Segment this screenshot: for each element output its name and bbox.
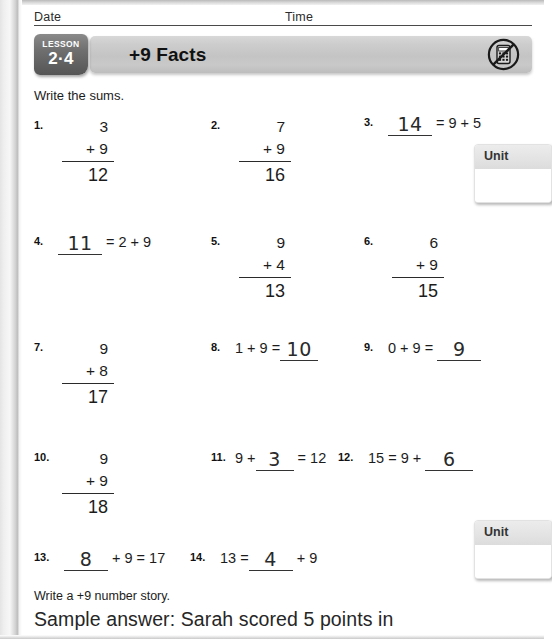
- horizontal-equation: 11 = 2 + 9: [58, 232, 151, 255]
- equation-rest: + 9 = 17: [112, 550, 165, 566]
- sum-value: 17: [62, 383, 114, 408]
- horizontal-equation: 1 + 9 =10: [235, 338, 318, 361]
- vertical-addition: 9 + 8 17: [62, 338, 114, 408]
- top-addend: 7: [239, 116, 291, 138]
- problem-number: 2.: [211, 119, 220, 131]
- horizontal-equation: 8 + 9 = 17: [64, 548, 165, 571]
- page-title: +9 Facts: [129, 44, 206, 66]
- problem-number: 6.: [364, 235, 373, 247]
- instruction-number-story: Write a +9 number story.: [34, 589, 170, 603]
- sample-answer-text: Sample answer: Sarah scored 5 points in: [34, 608, 393, 631]
- bottom-addend: + 9: [62, 138, 114, 160]
- problem-number: 10.: [34, 451, 49, 463]
- equation-lead: 0 + 9 =: [388, 340, 433, 356]
- bottom-addend: + 9: [62, 470, 114, 492]
- answer-blank[interactable]: 4: [249, 549, 293, 571]
- date-time-rule: [34, 25, 532, 26]
- lesson-banner: LESSON 2·4 +9 Facts: [34, 34, 532, 75]
- sum-value: 12: [62, 161, 114, 186]
- problem-number: 3.: [364, 116, 373, 128]
- unit-box-field[interactable]: [475, 545, 551, 578]
- equation-rest: + 9: [297, 550, 318, 566]
- top-addend: 6: [392, 232, 444, 254]
- unit-box-field[interactable]: [475, 169, 551, 202]
- equation-rest: = 12: [298, 450, 327, 466]
- problem-number: 12.: [338, 451, 353, 463]
- equation-lead: 13 =: [220, 550, 249, 566]
- sum-value: 15: [392, 277, 444, 302]
- unit-box-label: Unit: [475, 521, 551, 545]
- time-label: Time: [285, 10, 313, 24]
- equation-rest: = 2 + 9: [106, 234, 151, 250]
- horizontal-equation: 14 = 9 + 5: [388, 113, 481, 136]
- top-addend: 9: [62, 448, 114, 470]
- horizontal-equation: 15 = 9 + 6: [368, 448, 473, 471]
- sum-value: 18: [62, 493, 114, 518]
- problem-number: 7.: [34, 341, 43, 353]
- horizontal-equation: 0 + 9 = 9: [388, 338, 481, 361]
- top-addend: 3: [62, 116, 114, 138]
- horizontal-equation: 13 =4 + 9: [220, 548, 317, 571]
- equation-lead: 15 = 9 +: [368, 450, 421, 466]
- unit-box[interactable]: Unit: [474, 144, 552, 203]
- equation-lead: 9 +: [235, 450, 256, 466]
- answer-blank[interactable]: 14: [388, 114, 432, 136]
- unit-box-label: Unit: [475, 145, 551, 169]
- unit-box[interactable]: Unit: [474, 520, 552, 579]
- scan-left-gutter: [0, 0, 22, 639]
- answer-blank[interactable]: 8: [64, 549, 108, 571]
- bottom-addend: + 9: [392, 254, 444, 276]
- answer-blank[interactable]: 9: [437, 339, 481, 361]
- problem-number: 9.: [364, 341, 373, 353]
- sum-value: 16: [239, 161, 291, 186]
- problem-number: 13.: [34, 551, 49, 563]
- answer-blank[interactable]: 10: [280, 339, 318, 361]
- lesson-badge: LESSON 2·4: [34, 34, 88, 75]
- date-time-header: Date Time: [34, 6, 532, 26]
- problem-number: 1.: [34, 119, 43, 131]
- vertical-addition: 3 + 9 12: [62, 116, 114, 186]
- sum-value: 13: [239, 277, 291, 302]
- bottom-addend: + 4: [239, 254, 291, 276]
- equation-lead: 1 + 9 =: [235, 340, 280, 356]
- top-addend: 9: [239, 232, 291, 254]
- lesson-number: 2·4: [34, 49, 88, 69]
- answer-blank[interactable]: 3: [256, 449, 294, 471]
- answer-blank[interactable]: 6: [425, 449, 473, 471]
- horizontal-equation: 9 +3 = 12: [235, 448, 326, 471]
- lesson-word: LESSON: [34, 34, 88, 49]
- bottom-addend: + 9: [239, 138, 291, 160]
- instruction-write-sums: Write the sums.: [34, 88, 124, 103]
- problem-number: 11.: [211, 451, 226, 463]
- date-label: Date: [34, 10, 61, 24]
- problem-number: 5.: [211, 235, 220, 247]
- bottom-addend: + 8: [62, 360, 114, 382]
- answer-blank[interactable]: 11: [58, 233, 102, 255]
- vertical-addition: 9 + 4 13: [239, 232, 291, 302]
- equation-rest: = 9 + 5: [436, 115, 481, 131]
- problem-number: 4.: [34, 235, 43, 247]
- problem-number: 8.: [211, 341, 220, 353]
- vertical-addition: 9 + 9 18: [62, 448, 114, 518]
- vertical-addition: 7 + 9 16: [239, 116, 291, 186]
- worksheet-sheet: Date Time LESSON 2·4 +9 Facts: [22, 0, 544, 639]
- problem-number: 14.: [190, 551, 205, 563]
- no-calculator-icon: [487, 38, 520, 71]
- vertical-addition: 6 + 9 15: [392, 232, 444, 302]
- top-addend: 9: [62, 338, 114, 360]
